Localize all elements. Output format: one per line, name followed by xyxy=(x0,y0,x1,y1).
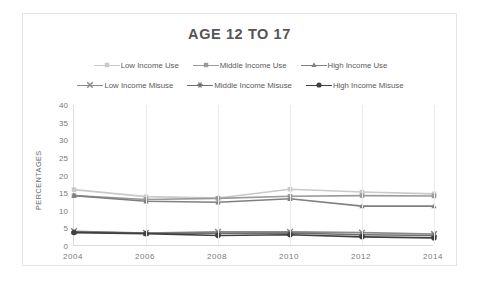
square-marker xyxy=(94,60,120,70)
legend-symbol xyxy=(200,60,211,71)
triangle-marker xyxy=(311,62,316,67)
legend-label: Middle Income Misuse xyxy=(214,81,292,90)
y-axis-tick-label: 10 xyxy=(59,206,68,215)
square-marker xyxy=(204,63,208,67)
vertical-gridline xyxy=(434,105,435,245)
x-marker xyxy=(88,82,94,88)
circle-marker xyxy=(316,82,321,87)
y-axis-title: PERCENTAGES xyxy=(31,130,45,230)
x-axis-tick-label: 2010 xyxy=(279,252,299,261)
y-axis-tick-label: 35 xyxy=(59,118,68,127)
circle-marker xyxy=(71,230,76,235)
y-axis-tick-labels: 4035302520151050 xyxy=(47,100,71,246)
y-axis-tick-label: 30 xyxy=(59,136,68,145)
legend-row: Low Income MisuseMiddle Income MisuseHig… xyxy=(37,75,444,95)
legend-entry[interactable]: High Income Misuse xyxy=(306,80,404,90)
vertical-gridline xyxy=(218,105,219,245)
asterisk-marker xyxy=(197,83,203,88)
y-axis-tick-label: 0 xyxy=(64,242,68,251)
x-axis-tick-label: 2012 xyxy=(351,252,371,261)
legend-symbol xyxy=(313,80,324,91)
plot-area xyxy=(73,105,433,246)
legend-symbol xyxy=(85,80,96,91)
y-axis-tick-label: 15 xyxy=(59,189,68,198)
chart-legend: Low Income UseMiddle Income UseHigh Inco… xyxy=(37,55,444,95)
legend-symbol xyxy=(308,60,319,71)
x-axis-tick-labels: 200420062008201020122014 xyxy=(73,250,433,266)
legend-row: Low Income UseMiddle Income UseHigh Inco… xyxy=(37,55,444,75)
legend-entry[interactable]: Low Income Use xyxy=(94,60,179,70)
vertical-gridline xyxy=(146,105,147,245)
square-marker xyxy=(104,63,108,67)
asterisk-marker xyxy=(187,80,213,90)
legend-entry[interactable]: Low Income Misuse xyxy=(77,80,173,90)
y-axis-tick-label: 40 xyxy=(59,101,68,110)
chart-title: AGE 12 TO 17 xyxy=(23,26,456,42)
vertical-gridline xyxy=(290,105,291,245)
circle-marker xyxy=(306,80,332,90)
legend-symbol xyxy=(101,60,112,71)
triangle-marker xyxy=(301,60,327,70)
legend-label: High Income Use xyxy=(328,61,388,70)
y-axis-tick-label: 20 xyxy=(59,171,68,180)
x-axis-tick-label: 2014 xyxy=(423,252,443,261)
legend-label: Low Income Use xyxy=(121,61,179,70)
vertical-gridline xyxy=(362,105,363,245)
square-marker xyxy=(72,187,77,192)
legend-entry[interactable]: High Income Use xyxy=(301,60,388,70)
legend-label: High Income Misuse xyxy=(333,81,404,90)
x-axis-tick-label: 2008 xyxy=(207,252,227,261)
square-marker xyxy=(193,60,219,70)
y-axis-tick-label: 5 xyxy=(64,224,68,233)
x-axis-tick-label: 2006 xyxy=(135,252,155,261)
data-series-layer xyxy=(74,105,434,246)
legend-entry[interactable]: Middle Income Misuse xyxy=(187,80,292,90)
y-axis-tick-label: 25 xyxy=(59,153,68,162)
legend-label: Middle Income Use xyxy=(220,61,287,70)
x-axis-tick-label: 2004 xyxy=(63,252,83,261)
plot-wrapper: PERCENTAGES 4035302520151050 20042006200… xyxy=(23,100,458,267)
x-marker xyxy=(77,80,103,90)
legend-symbol xyxy=(195,80,206,91)
chart-container: AGE 12 TO 17 Low Income UseMiddle Income… xyxy=(22,13,457,266)
legend-entry[interactable]: Middle Income Use xyxy=(193,60,287,70)
legend-label: Low Income Misuse xyxy=(104,81,173,90)
